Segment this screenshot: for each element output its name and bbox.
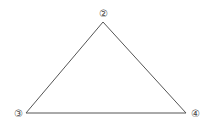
vertex-label-top: ②	[99, 8, 108, 19]
vertex-label-left: ③	[14, 108, 23, 119]
edge-top-left	[26, 22, 103, 113]
vertex-label-right: ④	[191, 108, 200, 119]
edge-top-right	[103, 22, 186, 113]
triangle-diagram: ② ③ ④	[0, 0, 213, 130]
